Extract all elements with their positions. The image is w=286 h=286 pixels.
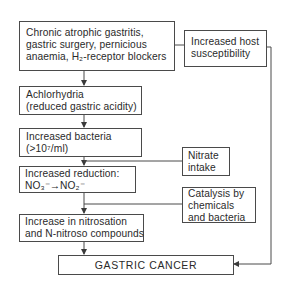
node-causes-line-1: Chronic atrophic gastritis, xyxy=(26,27,174,39)
node-catalysis-line-3: and bacteria xyxy=(188,212,255,224)
node-host-susceptibility: Increased host susceptibility xyxy=(184,30,267,67)
node-bacteria: Increased bacteria (>10⁷/ml) xyxy=(19,128,142,157)
node-nitrate-line-1: Nitrate xyxy=(188,150,229,162)
node-cancer-label: GASTRIC CANCER xyxy=(59,259,233,271)
node-reduction-line-1: Increased reduction: xyxy=(25,168,135,180)
node-nitrate-line-2: intake xyxy=(188,162,229,174)
node-causes-line-2: gastric surgery, pernicious xyxy=(26,39,174,51)
node-causes-line-3: anaemia, H₂-receptor blockers xyxy=(26,51,174,63)
node-reduction: Increased reduction: NO₃⁻→NO₂⁻ xyxy=(19,166,136,193)
node-catalysis-line-1: Catalysis by xyxy=(188,188,255,200)
node-host-line-1: Increased host xyxy=(191,36,266,48)
node-gastric-cancer: GASTRIC CANCER xyxy=(58,255,234,275)
node-catalysis: Catalysis by chemicals and bacteria xyxy=(182,187,256,223)
node-causes: Chronic atrophic gastritis, gastric surg… xyxy=(19,21,175,71)
node-nitrosation-line-1: Increase in nitrosation xyxy=(25,216,143,228)
node-achlorhydria-line-2: (reduced gastric acidity) xyxy=(26,101,141,113)
node-achlorhydria: Achlorhydria (reduced gastric acidity) xyxy=(19,86,142,115)
node-reduction-line-2: NO₃⁻→NO₂⁻ xyxy=(25,180,135,192)
node-bacteria-line-2: (>10⁷/ml) xyxy=(26,143,141,155)
node-bacteria-line-1: Increased bacteria xyxy=(26,131,141,143)
node-nitrosation: Increase in nitrosation and N-nitroso co… xyxy=(19,214,144,242)
node-nitrosation-line-2: and N-nitroso compounds xyxy=(25,228,143,240)
node-host-line-2: susceptibility xyxy=(191,48,266,60)
node-catalysis-line-2: chemicals xyxy=(188,200,255,212)
node-achlorhydria-line-1: Achlorhydria xyxy=(26,89,141,101)
node-nitrate-intake: Nitrate intake xyxy=(182,147,230,176)
